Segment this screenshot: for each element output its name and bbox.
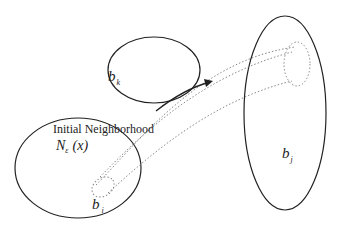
label-b-j: bj [282, 145, 294, 164]
set-b-j-ellipse [244, 16, 326, 210]
initial-neighborhood-title: Initial Neighborhood [53, 122, 154, 136]
label-b-k: bk [108, 68, 121, 87]
set-b-k-ellipse [108, 37, 200, 103]
diagram-canvas: bk bj bi Initial Neighborhood Nε(x) [0, 0, 340, 227]
neighborhood-symbol: Nε(x) [55, 138, 88, 155]
final-neighborhood-ellipse [284, 42, 310, 86]
label-b-i: bi [92, 196, 104, 215]
